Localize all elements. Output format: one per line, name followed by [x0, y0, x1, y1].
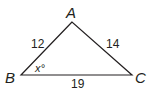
- angle-label-b: x°: [35, 63, 45, 74]
- side-label-ab: 12: [31, 38, 44, 50]
- side-label-ac: 14: [106, 38, 119, 50]
- side-label-bc: 19: [71, 78, 84, 90]
- vertex-label-a: A: [66, 5, 76, 20]
- vertex-label-b: B: [5, 70, 15, 85]
- vertex-label-c: C: [135, 70, 146, 85]
